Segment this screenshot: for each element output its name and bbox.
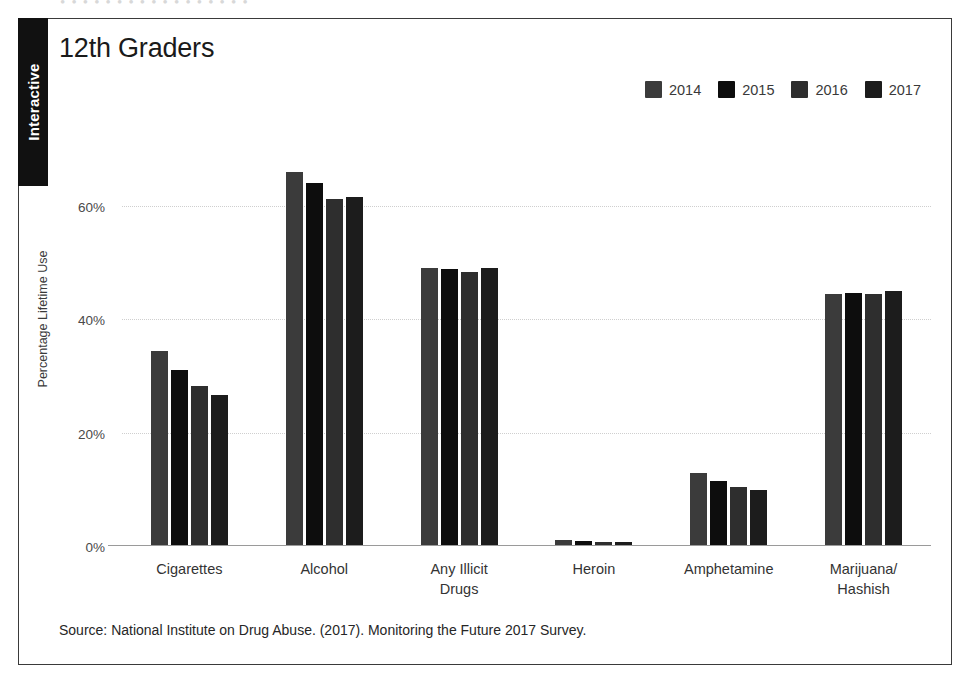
plot-wrapper: Percentage Lifetime Use 0%20%40%60% Ciga… xyxy=(19,19,953,666)
x-axis-line xyxy=(108,545,931,546)
bars xyxy=(257,149,392,546)
interactive-tab-label: Interactive xyxy=(25,63,42,140)
source-note: Source: National Institute on Drug Abuse… xyxy=(59,622,586,638)
bar-2015[interactable] xyxy=(306,183,323,546)
x-axis-label-line: Amphetamine xyxy=(661,560,796,580)
bar-2016[interactable] xyxy=(461,272,478,546)
bar-2017[interactable] xyxy=(885,291,902,546)
x-axis-label-line: Drugs xyxy=(392,580,527,600)
bars xyxy=(796,149,931,546)
x-axis-label-line: Cigarettes xyxy=(122,560,257,580)
y-axis-title: Percentage Lifetime Use xyxy=(36,251,50,388)
x-axis-label: Amphetamine xyxy=(661,560,796,580)
figure-page: • • • • • • • • • • • • • • • • • 12th G… xyxy=(0,0,972,679)
y-tick-label-0: 0% xyxy=(85,540,105,555)
bar-group: Marijuana/Hashish xyxy=(796,149,931,546)
bar-group: Amphetamine xyxy=(661,149,796,546)
figure-frame: 12th Graders 2014201520162017 Percentage… xyxy=(18,18,952,665)
interactive-tab[interactable]: Interactive xyxy=(18,18,48,186)
bar-2014[interactable] xyxy=(825,294,842,546)
plot-area: 0%20%40%60% CigarettesAlcoholAny Illicit… xyxy=(122,149,931,546)
bars xyxy=(661,149,796,546)
page-bleed-through: • • • • • • • • • • • • • • • • • xyxy=(60,0,920,16)
bar-2017[interactable] xyxy=(346,197,363,546)
bar-2016[interactable] xyxy=(865,294,882,546)
bar-2014[interactable] xyxy=(151,351,168,546)
bar-2015[interactable] xyxy=(845,293,862,547)
bar-2014[interactable] xyxy=(286,172,303,546)
x-axis-label-line: Any Illicit xyxy=(392,560,527,580)
bar-2016[interactable] xyxy=(191,386,208,547)
x-axis-label-line: Hashish xyxy=(796,580,931,600)
bar-2015[interactable] xyxy=(441,269,458,546)
y-tick-label-20: 20% xyxy=(78,426,105,441)
x-axis-label: Cigarettes xyxy=(122,560,257,580)
y-tick-label-40: 40% xyxy=(78,313,105,328)
bar-2015[interactable] xyxy=(710,481,727,546)
bar-2014[interactable] xyxy=(690,473,707,546)
x-axis-label: Marijuana/Hashish xyxy=(796,560,931,599)
bar-group: Heroin xyxy=(526,149,661,546)
x-axis-label: Heroin xyxy=(526,560,661,580)
bar-2017[interactable] xyxy=(211,395,228,546)
bar-group: Cigarettes xyxy=(122,149,257,546)
x-axis-label-line: Alcohol xyxy=(257,560,392,580)
x-axis-label-line: Heroin xyxy=(526,560,661,580)
bar-2014[interactable] xyxy=(421,268,438,546)
bar-group: Any IllicitDrugs xyxy=(392,149,527,546)
x-axis-label-line: Marijuana/ xyxy=(796,560,931,580)
bars xyxy=(526,149,661,546)
x-axis-label: Alcohol xyxy=(257,560,392,580)
x-axis-label: Any IllicitDrugs xyxy=(392,560,527,599)
bar-group: Alcohol xyxy=(257,149,392,546)
bar-2015[interactable] xyxy=(171,370,188,546)
bar-2017[interactable] xyxy=(750,490,767,546)
gridline-0: 0% xyxy=(122,546,931,547)
bar-2016[interactable] xyxy=(730,487,747,546)
bars xyxy=(392,149,527,546)
bar-2016[interactable] xyxy=(326,199,343,546)
bar-2017[interactable] xyxy=(481,268,498,546)
bar-groups: CigarettesAlcoholAny IllicitDrugsHeroinA… xyxy=(122,149,931,546)
bars xyxy=(122,149,257,546)
y-tick-label-60: 60% xyxy=(78,199,105,214)
